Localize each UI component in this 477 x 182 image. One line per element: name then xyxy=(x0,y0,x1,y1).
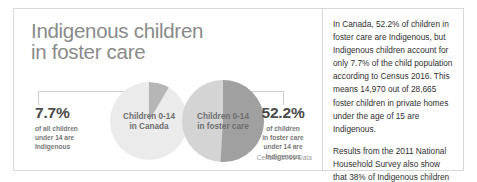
article-panel: In Canada, 52.2% of children in foster c… xyxy=(323,9,463,170)
callout-canada: 7.7% of all children under 14 are Indige… xyxy=(35,105,95,152)
source-caption: Census 2016 Data xyxy=(257,154,312,161)
callout-canada-description: of all children under 14 are Indigenous xyxy=(35,124,95,152)
pie-label-children-in-canada: Children 0-14 in Canada xyxy=(110,112,188,132)
infographic-card: Indigenous children in foster care Child… xyxy=(13,8,464,171)
article-paragraph-1: In Canada, 52.2% of children in foster c… xyxy=(333,18,455,136)
chart-panel: Indigenous children in foster care Child… xyxy=(14,9,323,170)
callout-foster: 52.2% of children in foster care under 1… xyxy=(252,105,314,161)
callout-foster-percent: 52.2% xyxy=(252,105,314,121)
page-title: Indigenous children in foster care xyxy=(31,20,286,63)
article-paragraph-2: Results from the 2011 National Household… xyxy=(333,145,455,182)
infographic-root: Indigenous children in foster care Child… xyxy=(0,0,477,182)
callout-canada-percent: 7.7% xyxy=(35,105,95,121)
